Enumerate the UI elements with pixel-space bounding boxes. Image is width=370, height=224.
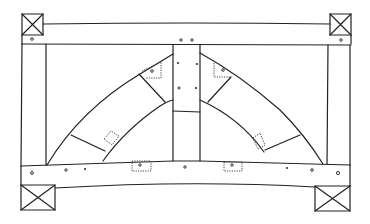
peg-icon <box>84 168 86 170</box>
peg-icon <box>31 172 34 175</box>
peg-icon <box>311 169 314 172</box>
corner-post-top-left <box>22 14 43 35</box>
peg-icon <box>65 169 67 171</box>
peg-icon <box>180 39 182 41</box>
peg-icon <box>184 166 186 168</box>
left-post <box>21 44 46 166</box>
peg-icon <box>191 39 193 41</box>
right-post <box>327 45 350 165</box>
corner-post-bottom-right <box>315 186 350 211</box>
truss-diagram <box>0 0 370 224</box>
corner-post-bottom-left <box>21 185 55 210</box>
peg-icon <box>336 171 339 174</box>
king-post <box>173 45 200 161</box>
peg-icon <box>340 39 343 42</box>
bottom-beam <box>21 161 350 188</box>
top-beam <box>22 23 351 45</box>
corner-post-top-right <box>330 14 351 35</box>
right-arch-brace <box>200 53 323 164</box>
left-arch-brace <box>47 54 173 165</box>
peg-icon <box>31 38 34 41</box>
peg-icon <box>286 167 288 169</box>
